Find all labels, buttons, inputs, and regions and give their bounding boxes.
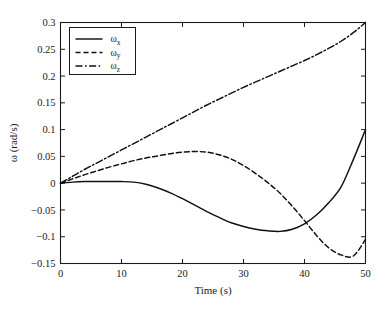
y-tick-label: −0.05 (31, 205, 55, 216)
y-tick-label: 0.1 (42, 124, 55, 135)
line-chart: 01020304050−0.15−0.1−0.0500.050.10.150.2… (0, 0, 391, 313)
y-tick-label: −0.15 (31, 258, 55, 269)
x-tick-label: 0 (58, 268, 63, 279)
x-tick-label: 20 (177, 268, 188, 279)
chart-legend: ωxωyωz (70, 28, 136, 75)
y-tick-label: −0.1 (36, 231, 55, 242)
x-tick-label: 50 (360, 268, 371, 279)
x-tick-label: 40 (299, 268, 310, 279)
y-tick-label: 0.3 (42, 17, 55, 28)
x-tick-label: 30 (238, 268, 249, 279)
y-axis-title: ω (rad/s) (7, 123, 20, 162)
figure-container: 01020304050−0.15−0.1−0.0500.050.10.150.2… (0, 0, 391, 313)
x-axis-title: Time (s) (194, 284, 232, 297)
y-tick-label: 0 (50, 178, 55, 189)
y-tick-label: 0.15 (37, 97, 55, 108)
x-tick-label: 10 (116, 268, 127, 279)
y-tick-label: 0.05 (37, 151, 55, 162)
y-tick-label: 0.2 (42, 71, 55, 82)
legend-box (70, 28, 136, 75)
y-tick-label: 0.25 (37, 44, 55, 55)
